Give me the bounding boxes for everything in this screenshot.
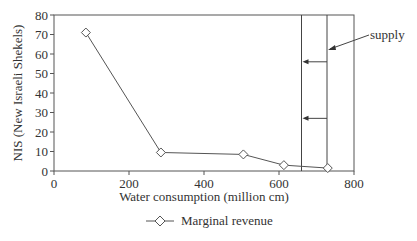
- y-tick-label: 20: [35, 125, 48, 140]
- y-tick-label: 70: [35, 27, 48, 42]
- y-tick-label: 40: [35, 86, 48, 101]
- arrowhead-icon: [303, 59, 309, 64]
- y-tick-label: 50: [35, 66, 48, 81]
- diamond-marker-icon: [81, 28, 90, 37]
- plot-frame: [54, 15, 354, 171]
- y-tick-label: 30: [35, 105, 48, 120]
- y-tick-label: 10: [35, 144, 48, 159]
- x-tick-label: 800: [344, 176, 364, 191]
- y-tick-label: 80: [35, 8, 48, 23]
- supply-label: supply: [370, 27, 405, 42]
- supply-annotation: supply: [328, 27, 405, 50]
- diamond-marker-icon: [155, 216, 165, 226]
- y-tick-label: 60: [35, 47, 48, 62]
- y-axis-label: NIS (New Israeli Shekels): [10, 25, 25, 162]
- chart: 01020304050607080 0200400600800 NIS (New…: [0, 0, 417, 241]
- x-axis-label: Water consumption (million cm): [119, 189, 289, 204]
- legend-label: Marginal revenue: [181, 213, 273, 228]
- arrowhead-icon: [303, 116, 309, 121]
- x-axis: 0200400600800: [51, 171, 364, 191]
- arrowhead-icon: [328, 45, 336, 50]
- diamond-marker-icon: [156, 148, 165, 157]
- plot-area: [54, 15, 354, 173]
- diamond-marker-icon: [279, 161, 288, 170]
- legend: Marginal revenue: [146, 213, 273, 228]
- x-tick-label: 0: [51, 176, 58, 191]
- series-line: [86, 33, 328, 169]
- diamond-marker-icon: [239, 150, 248, 159]
- supply-pointer-line: [330, 35, 369, 49]
- y-tick-label: 0: [42, 164, 49, 179]
- y-axis: 01020304050607080: [35, 8, 54, 179]
